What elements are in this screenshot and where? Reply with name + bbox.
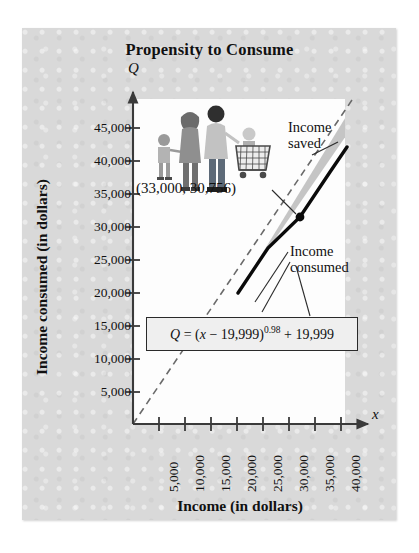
- formula-q: Q: [170, 327, 180, 342]
- income-saved-line1: Income: [288, 119, 331, 135]
- income-saved-line2: saved: [288, 135, 331, 151]
- income-consumed-annotation: Income consumed: [290, 243, 349, 275]
- x-tick-label: 30,000: [296, 455, 312, 492]
- x-tick-label: 35,000: [322, 455, 338, 492]
- income-consumed-line1: Income: [290, 243, 349, 259]
- figure-root: Propensity to Consume: [0, 0, 419, 553]
- formula-eq: = (: [180, 327, 200, 342]
- y-tick-label: 5,000: [59, 384, 131, 400]
- formula-mid: − 19,999): [206, 327, 264, 342]
- y-tick-label: 15,000: [59, 318, 131, 334]
- income-saved-annotation: Income saved: [288, 119, 331, 151]
- income-consumed-line2: consumed: [290, 259, 349, 275]
- x-tick-label: 20,000: [244, 455, 260, 492]
- x-axis-symbol: x: [372, 406, 379, 423]
- y-tick-label: 45,000: [59, 120, 131, 136]
- formula-tail: + 19,999: [281, 327, 334, 342]
- x-tick-label: 15,000: [218, 455, 234, 492]
- y-tick-labels: 45,000 40,000 35,000 30,000 25,000 20,00…: [55, 0, 131, 553]
- y-tick-label: 20,000: [59, 285, 131, 301]
- formula-box: Q = (x − 19,999)0.98 + 19,999: [146, 317, 358, 351]
- data-point-marker: [296, 213, 305, 222]
- data-point-label: (33,000, 30,756): [136, 180, 236, 197]
- x-tick-label: 5,000: [166, 462, 182, 492]
- x-axis-title: Income (in dollars): [100, 497, 380, 515]
- y-tick-label: 25,000: [59, 252, 131, 268]
- x-tick-label: 25,000: [270, 455, 286, 492]
- formula-exponent: 0.98: [264, 325, 281, 335]
- formula-text: Q = (x − 19,999)0.98 + 19,999: [170, 325, 334, 343]
- x-tick-label: 40,000: [348, 455, 364, 492]
- y-tick-label: 30,000: [59, 219, 131, 235]
- x-tick-label: 10,000: [192, 455, 208, 492]
- y-tick-label: 35,000: [59, 186, 131, 202]
- y-axis-title: Income consumed (in dollars): [33, 117, 51, 437]
- y-tick-label: 40,000: [59, 153, 131, 169]
- y-tick-label: 10,000: [59, 351, 131, 367]
